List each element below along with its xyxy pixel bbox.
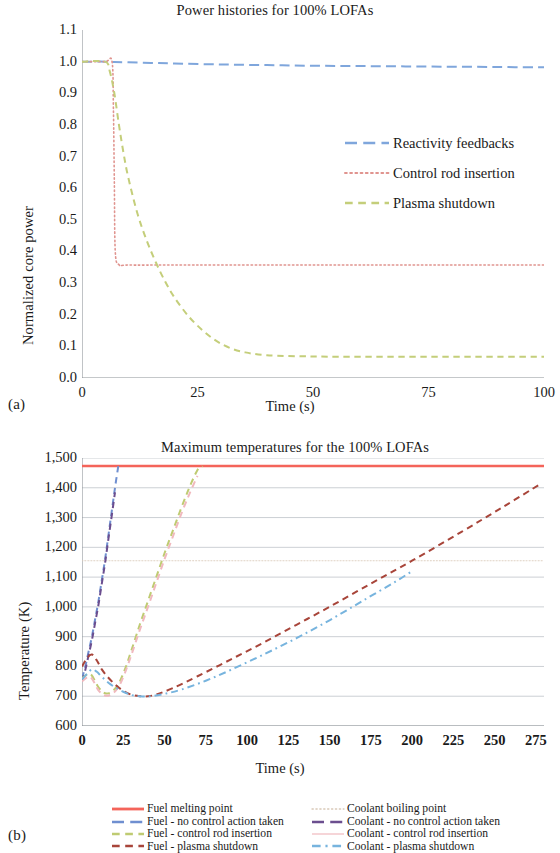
legend-line-sample — [112, 817, 144, 827]
y-tick-label: 0.4 — [0, 243, 77, 258]
x-tick-label: 25 — [173, 385, 223, 400]
legend-line-sample — [312, 817, 344, 827]
y-tick-label: 0.2 — [0, 307, 77, 322]
legend-b-label: Fuel - no control action taken — [147, 816, 284, 828]
legend-b-item[interactable]: Fuel - no control action taken — [112, 815, 312, 827]
legend-a-item[interactable]: Reactivity feedbacks — [345, 128, 550, 158]
y-tick-label: 900 — [0, 629, 77, 644]
legend-b-item[interactable]: Coolant - control rod insertion — [312, 828, 550, 840]
legend-line-sample — [345, 197, 389, 209]
legend-b-label: Coolant - no control action taken — [347, 816, 500, 828]
y-tick-label: 1.1 — [0, 22, 77, 37]
legend-b-item[interactable]: Fuel - plasma shutdown — [112, 840, 312, 852]
y-tick-label: 0.0 — [0, 370, 77, 385]
y-tick-label: 1,200 — [0, 539, 77, 554]
legend-swatch-icon — [112, 817, 144, 827]
y-tick-label: 1,300 — [0, 510, 77, 525]
plot-area-maximum-temperatures — [82, 458, 544, 726]
legend-a-item[interactable]: Plasma shutdown — [345, 188, 550, 218]
legend-swatch-icon — [312, 829, 344, 839]
legend-swatch-icon — [312, 817, 344, 827]
y-tick-label: 800 — [0, 658, 77, 673]
legend-a-label: Control rod insertion — [393, 165, 515, 182]
y-tick-label: 1,000 — [0, 599, 77, 614]
legend-b-label: Coolant - control rod insertion — [347, 828, 488, 840]
legend-line-sample — [312, 804, 344, 814]
chart-title-maximum-temperatures: Maximum temperatures for the 100% LOFAs — [60, 439, 530, 456]
legend-swatch-icon — [112, 841, 144, 851]
legend-line-sample — [112, 829, 144, 839]
legend-b-label: Fuel - plasma shutdown — [147, 841, 258, 853]
x-axis-label-time: Time (s) — [140, 398, 440, 415]
y-tick-label: 1.0 — [0, 54, 77, 69]
panel-power-histories: Power histories for 100% LOFAs Normalize… — [0, 0, 550, 425]
panel-a-caption-label: (a) — [8, 396, 25, 413]
legend-swatch-icon — [345, 197, 389, 209]
legend-b-label: Coolant boiling point — [347, 803, 446, 815]
legend-b-item[interactable]: Coolant boiling point — [312, 803, 550, 815]
legend-swatch-icon — [345, 167, 389, 179]
y-tick-label: 1,400 — [0, 480, 77, 495]
legend-b-label: Fuel melting point — [147, 803, 233, 815]
y-tick-label: 0.5 — [0, 212, 77, 227]
x-tick-label: 50 — [288, 385, 338, 400]
legend-swatch-icon — [345, 137, 389, 149]
legend-line-sample — [312, 841, 344, 851]
legend-power-histories: Reactivity feedbacksControl rod insertio… — [345, 128, 550, 218]
y-tick-label: 0.9 — [0, 85, 77, 100]
y-axis-label-temperature: Temperature (K) — [16, 602, 33, 700]
y-tick-label: 0.3 — [0, 275, 77, 290]
legend-b-label: Fuel - control rod insertion — [147, 828, 272, 840]
y-tick-label: 0.1 — [0, 338, 77, 353]
x-tick-label: 0 — [57, 385, 107, 400]
legend-b-item[interactable]: Coolant - no control action taken — [312, 815, 550, 827]
x-tick-label: 100 — [519, 385, 560, 400]
legend-line-sample — [112, 841, 144, 851]
legend-swatch-icon — [112, 804, 144, 814]
series-line-0 — [82, 62, 544, 68]
y-tick-label: 700 — [0, 688, 77, 703]
legend-maximum-temperatures: Fuel melting pointCoolant boiling pointF… — [112, 803, 550, 853]
x-tick-label: 75 — [404, 385, 454, 400]
legend-line-sample — [345, 167, 389, 179]
series-line-4 — [82, 466, 202, 693]
legend-line-sample — [345, 137, 389, 149]
legend-line-sample — [112, 804, 144, 814]
legend-line-sample — [312, 829, 344, 839]
legend-b-item[interactable]: Coolant - plasma shutdown — [312, 840, 550, 852]
legend-swatch-icon — [112, 829, 144, 839]
legend-b-item[interactable]: Fuel melting point — [112, 803, 312, 815]
x-tick-label: 275 — [511, 733, 560, 748]
legend-b-label: Coolant - plasma shutdown — [347, 841, 474, 853]
series-line-6 — [82, 485, 539, 697]
series-line-7 — [82, 571, 412, 696]
panel-maximum-temperatures: Maximum temperatures for the 100% LOFAs … — [0, 425, 550, 853]
y-tick-label: 1,500 — [0, 450, 77, 465]
x-axis-label-time: Time (s) — [130, 760, 430, 777]
series-line-2 — [82, 466, 118, 678]
legend-a-label: Plasma shutdown — [393, 195, 495, 212]
legend-a-item[interactable]: Control rod insertion — [345, 158, 550, 188]
y-tick-label: 0.6 — [0, 180, 77, 195]
legend-swatch-icon — [312, 804, 344, 814]
panel-b-caption-label: (b) — [8, 827, 26, 844]
chart-title-power-histories: Power histories for 100% LOFAs — [55, 2, 495, 19]
legend-swatch-icon — [312, 841, 344, 851]
y-tick-label: 0.8 — [0, 117, 77, 132]
legend-a-label: Reactivity feedbacks — [393, 135, 514, 152]
y-tick-label: 1,100 — [0, 569, 77, 584]
y-tick-label: 0.7 — [0, 149, 77, 164]
y-tick-label: 600 — [0, 718, 77, 733]
legend-b-item[interactable]: Fuel - control rod insertion — [112, 828, 312, 840]
